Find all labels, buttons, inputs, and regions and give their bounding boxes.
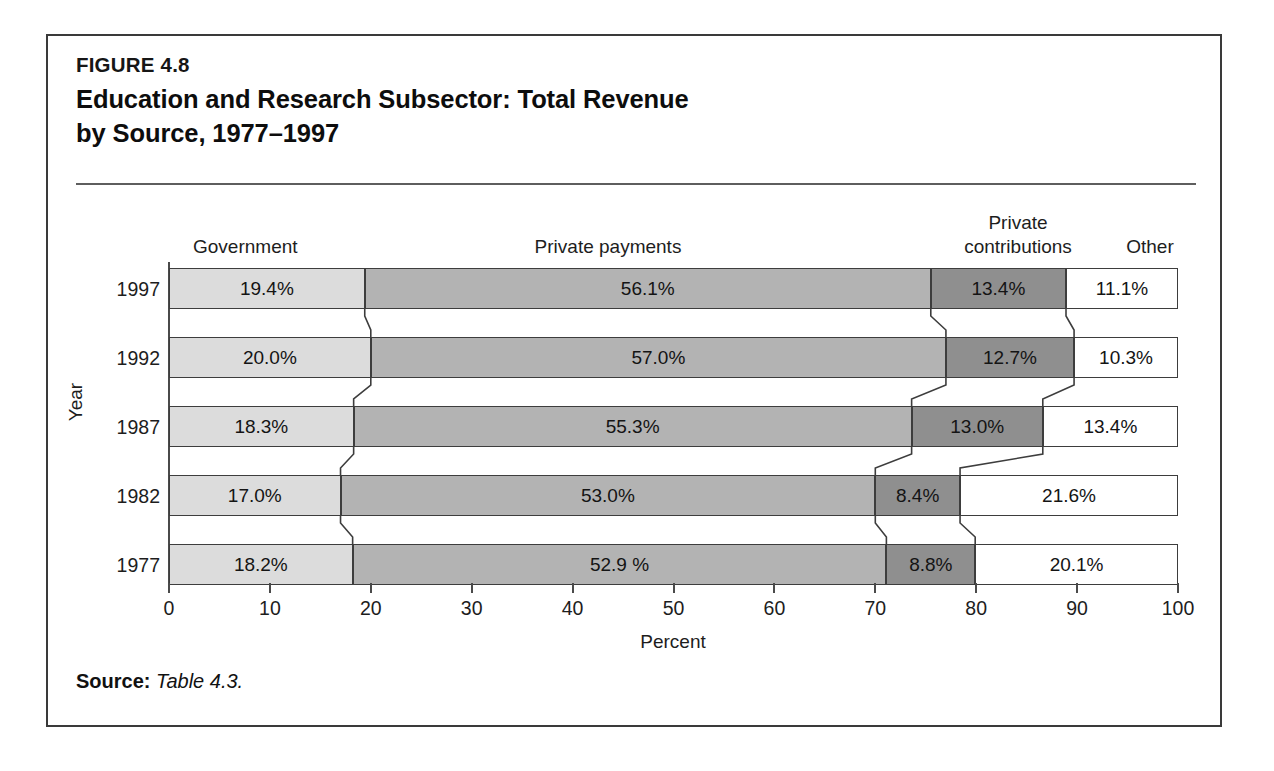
bar-segment-label: 10.3%: [1099, 348, 1153, 367]
bar-segment-1992-private-payments: 57.0%: [371, 337, 946, 378]
column-header-private-payments: Private payments: [488, 236, 728, 258]
x-tick-100: [1177, 583, 1179, 593]
bar-segment-1997-private-payments: 56.1%: [365, 268, 931, 309]
bar-segment-label: 13.0%: [950, 417, 1004, 436]
bar-segment-1987-government: 18.3%: [169, 406, 354, 447]
stacked-bar-chart: Government Private payments Private cont…: [48, 36, 1224, 729]
column-header-government: Government: [193, 236, 383, 258]
x-axis-title: Percent: [573, 631, 773, 653]
bar-row-1977: 18.2%52.9 %8.8%20.1%: [48, 544, 1224, 585]
connector-line: [1043, 378, 1074, 406]
bar-segment-1997-government: 19.4%: [169, 268, 365, 309]
x-tick-label-90: 90: [1047, 597, 1107, 620]
connector-line: [875, 447, 911, 475]
x-tick-label-60: 60: [744, 597, 804, 620]
bar-segment-label: 13.4%: [971, 279, 1025, 298]
bar-segment-1997-private-contributions: 13.4%: [931, 268, 1066, 309]
bar-row-1982: 17.0%53.0%8.4%21.6%: [48, 475, 1224, 516]
x-tick-70: [874, 583, 876, 593]
x-tick-label-50: 50: [644, 597, 704, 620]
x-tick-30: [471, 583, 473, 593]
connector-line: [931, 309, 946, 337]
column-header-private-contributions-line-2: contributions: [928, 236, 1108, 258]
bar-segment-label: 57.0%: [631, 348, 685, 367]
x-tick-label-40: 40: [543, 597, 603, 620]
bar-segment-label: 12.7%: [983, 348, 1037, 367]
x-tick-20: [370, 583, 372, 593]
x-tick-label-30: 30: [442, 597, 502, 620]
x-tick-label-80: 80: [946, 597, 1006, 620]
bar-segment-1992-other: 10.3%: [1074, 337, 1178, 378]
source-note: Source: Table 4.3.: [76, 670, 243, 693]
bar-segment-label: 18.2%: [234, 555, 288, 574]
bar-segment-label: 20.0%: [243, 348, 297, 367]
connector-line: [960, 447, 1043, 475]
x-tick-60: [773, 583, 775, 593]
column-header-private-contributions-line-1: Private: [928, 212, 1108, 234]
connector-line: [341, 516, 353, 544]
y-axis-label-1997: 1997: [90, 278, 160, 301]
figure-frame: FIGURE 4.8 Education and Research Subsec…: [46, 34, 1222, 727]
bar-row-1997: 19.4%56.1%13.4%11.1%: [48, 268, 1224, 309]
bar-segment-1977-government: 18.2%: [169, 544, 353, 585]
bar-row-1992: 20.0%57.0%12.7%10.3%: [48, 337, 1224, 378]
source-value: Table 4.3.: [156, 670, 243, 692]
x-tick-10: [269, 583, 271, 593]
connector-line: [354, 378, 371, 406]
bar-segment-label: 56.1%: [621, 279, 675, 298]
connector-line: [1066, 309, 1074, 337]
x-tick-80: [975, 583, 977, 593]
bar-segment-label: 21.6%: [1042, 486, 1096, 505]
connector-line: [341, 447, 354, 475]
x-tick-label-100: 100: [1148, 597, 1208, 620]
bar-segment-label: 52.9 %: [590, 555, 649, 574]
bar-segment-1977-private-payments: 52.9 %: [353, 544, 887, 585]
x-tick-40: [572, 583, 574, 593]
x-tick-0: [168, 583, 170, 593]
bar-segment-1977-other: 20.1%: [975, 544, 1178, 585]
x-tick-label-70: 70: [845, 597, 905, 620]
y-axis-label-1987: 1987: [90, 416, 160, 439]
bar-segment-1987-private-contributions: 13.0%: [912, 406, 1043, 447]
bar-segment-label: 18.3%: [234, 417, 288, 436]
x-tick-50: [673, 583, 675, 593]
bar-segment-1987-private-payments: 55.3%: [354, 406, 912, 447]
y-axis-label-1977: 1977: [90, 554, 160, 577]
connector-line: [960, 516, 975, 544]
bar-segment-label: 8.8%: [909, 555, 952, 574]
bar-segment-1982-government: 17.0%: [169, 475, 341, 516]
segment-connector-lines: [48, 36, 1224, 729]
x-tick-label-20: 20: [341, 597, 401, 620]
bar-segment-1982-private-contributions: 8.4%: [875, 475, 960, 516]
y-axis-label-1982: 1982: [90, 485, 160, 508]
bar-segment-1997-other: 11.1%: [1066, 268, 1178, 309]
bar-segment-label: 13.4%: [1083, 417, 1137, 436]
source-label: Source:: [76, 670, 150, 692]
bar-segment-label: 11.1%: [1096, 279, 1148, 298]
bar-segment-1982-private-payments: 53.0%: [341, 475, 876, 516]
bar-segment-1987-other: 13.4%: [1043, 406, 1178, 447]
bar-segment-label: 17.0%: [228, 486, 282, 505]
bar-segment-label: 19.4%: [240, 279, 294, 298]
bar-row-1987: 18.3%55.3%13.0%13.4%: [48, 406, 1224, 447]
y-axis-label-1992: 1992: [90, 347, 160, 370]
bar-segment-1992-government: 20.0%: [169, 337, 371, 378]
column-header-other: Other: [1110, 236, 1190, 258]
bar-segment-1982-other: 21.6%: [960, 475, 1178, 516]
x-tick-90: [1076, 583, 1078, 593]
bar-segment-label: 55.3%: [606, 417, 660, 436]
connector-line: [912, 378, 946, 406]
bar-segment-1977-private-contributions: 8.8%: [886, 544, 975, 585]
bar-segment-label: 53.0%: [581, 486, 635, 505]
bar-segment-1992-private-contributions: 12.7%: [946, 337, 1074, 378]
figure-page: FIGURE 4.8 Education and Research Subsec…: [0, 0, 1274, 771]
x-tick-label-0: 0: [139, 597, 199, 620]
bar-segment-label: 20.1%: [1050, 555, 1104, 574]
x-tick-label-10: 10: [240, 597, 300, 620]
connector-line: [365, 309, 371, 337]
connector-line: [875, 516, 886, 544]
bar-segment-label: 8.4%: [896, 486, 939, 505]
